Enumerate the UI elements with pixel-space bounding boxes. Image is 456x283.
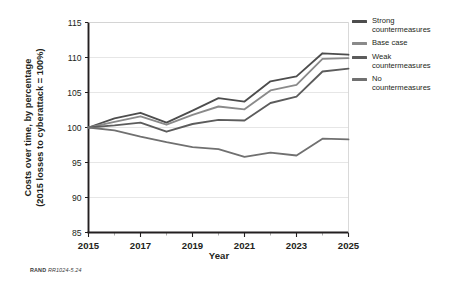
legend-swatch-base-case [352,42,367,45]
series-line-no-countermeasures [89,128,349,157]
legend-item-strong-countermeasures: Strong countermeasures [352,16,456,34]
legend-label-line1: Strong [372,16,431,25]
figure-number: RR1024-5.24 [48,267,82,273]
x-tick-label: 2015 [78,240,100,251]
rand-wordmark: RAND [30,267,46,273]
figure-source-note: RAND RR1024-5.24 [30,267,82,273]
legend-item-base-case: Base case [352,38,456,47]
legend-label-line1: No [372,74,431,83]
legend-swatch-no-countermeasures [352,78,367,81]
y-tick-label: 95 [72,158,82,168]
chart-figure: Costs over time, by percentage (2015 los… [0,0,456,283]
y-tick-label: 85 [72,228,82,238]
y-tick-label: 100 [67,123,82,133]
series-line-strong-countermeasures [89,53,349,127]
x-tick-label: 2025 [338,240,360,251]
legend-label-line1: Base case [372,38,407,47]
legend-swatch-weak-countermeasures [352,56,367,59]
y-tick-label: 105 [67,88,82,98]
x-tick-label: 2019 [182,240,203,251]
chart-legend: Strong countermeasures Base case Weak co… [352,16,456,96]
x-tick-label: 2017 [130,240,151,251]
series-line-weak-countermeasures [89,69,349,132]
legend-item-no-countermeasures: No countermeasures [352,74,456,92]
legend-item-weak-countermeasures: Weak countermeasures [352,52,456,70]
legend-label-strong-countermeasures: Strong countermeasures [372,16,431,34]
legend-label-weak-countermeasures: Weak countermeasures [372,52,431,70]
legend-label-base-case: Base case [372,38,407,47]
legend-label-line1: Weak [372,52,431,61]
legend-label-no-countermeasures: No countermeasures [372,74,431,92]
legend-label-line2: countermeasures [372,61,431,70]
x-tick-label: 2023 [286,240,307,251]
x-tick-label: 2021 [234,240,256,251]
legend-label-line2: countermeasures [372,83,431,92]
legend-label-line2: countermeasures [372,25,431,34]
x-axis-title: Year [88,250,350,261]
legend-swatch-strong-countermeasures [352,20,367,23]
y-tick-label: 115 [68,18,82,28]
y-tick-label: 90 [72,193,82,203]
y-tick-label: 110 [68,53,82,63]
